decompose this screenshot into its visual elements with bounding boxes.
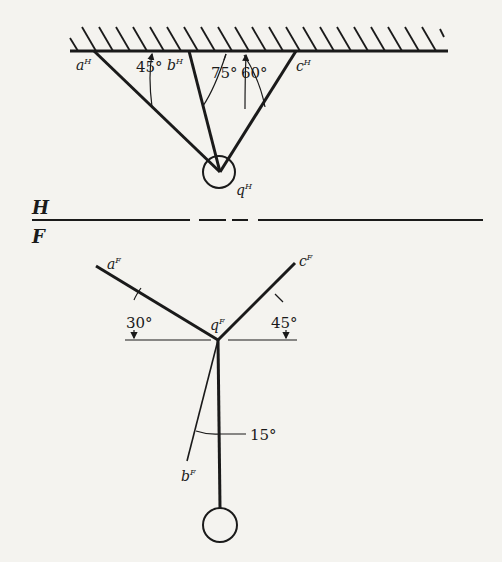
angle-c-top: 60° — [241, 64, 268, 82]
point-q-front-label: qF — [210, 317, 225, 333]
front-angle-arcs — [134, 288, 286, 434]
angle-c-front: 45° — [271, 314, 298, 332]
descriptive-geometry-diagram: aH 45° bH 75° 60° cH qH H F aF cF 30° qF… — [0, 0, 502, 562]
ceiling — [70, 27, 448, 51]
angle-b-top: 75° — [211, 64, 238, 82]
point-b-top-label: bH — [167, 57, 184, 73]
front-view-members — [96, 263, 297, 542]
point-a-front-label: aF — [107, 256, 121, 272]
point-c-top-label: cH — [296, 58, 312, 74]
view-label-f: F — [31, 226, 46, 247]
angle-a-top: 45° — [136, 58, 163, 76]
point-a-top-label: aH — [76, 57, 92, 73]
angle-b-front: 15° — [250, 426, 277, 444]
point-q-top-label: qH — [236, 182, 253, 198]
weight-front-view — [203, 508, 237, 542]
point-c-front-label: cF — [299, 253, 313, 269]
angle-a-front: 30° — [126, 314, 153, 332]
point-b-front-label: bF — [181, 468, 196, 484]
view-label-h: H — [31, 197, 50, 218]
